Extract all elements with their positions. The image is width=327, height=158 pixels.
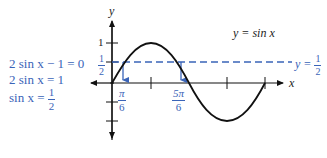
line-label: y = 12 xyxy=(295,54,321,77)
solution-step-2: 2 sin x = 1 xyxy=(9,73,64,86)
function-label: y = sin x xyxy=(233,27,275,39)
x-marker-pi-over-6: π6 xyxy=(118,88,126,113)
y-tick-label-half: 12 xyxy=(98,54,105,77)
solution-step-1: 2 sin x − 1 = 0 xyxy=(9,57,84,70)
solution-step-3: sin x = 12 xyxy=(9,87,55,112)
y-tick-label-1: 1 xyxy=(98,37,104,48)
sine-curve xyxy=(112,43,265,121)
x-axis-label: x xyxy=(289,77,294,89)
x-marker-5pi-over-6: 5π6 xyxy=(172,88,185,113)
y-axis-label: y xyxy=(109,5,114,17)
